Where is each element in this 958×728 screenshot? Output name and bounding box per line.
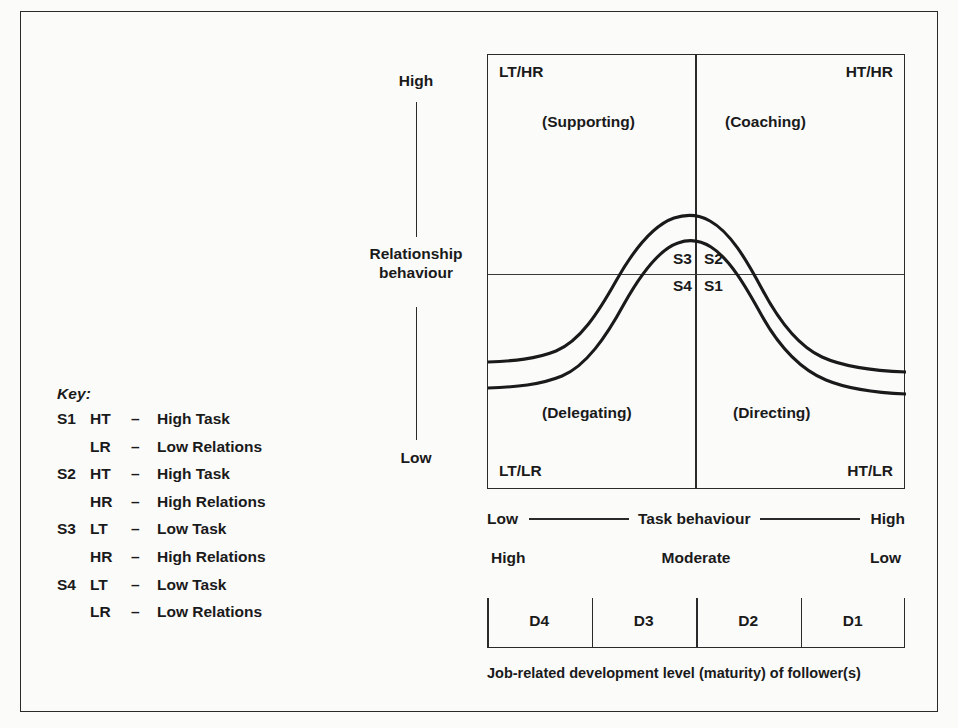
y-axis-title-line1: Relationship xyxy=(369,245,462,262)
development-level-cell: D1 xyxy=(801,598,906,647)
style-marker-s4: S4 xyxy=(673,277,692,295)
key-description: High Relations xyxy=(157,493,357,511)
quadrant-tag-top-right: HT/HR xyxy=(846,63,893,81)
y-axis-line-lower xyxy=(416,307,417,440)
key-row: S3 LT – Low Task xyxy=(57,520,357,548)
quadrant-tag-bottom-left: LT/LR xyxy=(499,462,542,480)
key-abbreviation: HT xyxy=(90,465,131,483)
key-row: HR – High Relations xyxy=(57,493,357,521)
relationship-behaviour-axis: High Relationship behaviour Low xyxy=(352,54,480,490)
y-axis-title: Relationship behaviour xyxy=(352,244,480,282)
development-level-cell: D3 xyxy=(592,598,697,647)
x-axis-rule-left xyxy=(529,518,629,519)
y-axis-line-upper xyxy=(416,102,417,237)
key-legend: Key: S1 HT – High Task LR – Low Relation… xyxy=(57,385,357,631)
development-level-scale: D4 D3 D2 D1 xyxy=(487,598,905,648)
key-abbreviation: LR xyxy=(90,603,131,621)
development-level-label: D3 xyxy=(634,612,654,633)
key-style-code: S3 xyxy=(57,520,90,538)
chart-horizontal-divider xyxy=(488,274,904,275)
maturity-header-moderate: Moderate xyxy=(487,549,905,567)
key-row: LR – Low Relations xyxy=(57,438,357,466)
key-row: S2 HT – High Task xyxy=(57,465,357,493)
key-abbreviation: HT xyxy=(90,410,131,428)
quadrant-chart: LT/HR HT/HR LT/LR HT/LR (Supporting) (Co… xyxy=(487,54,905,489)
key-dash: – xyxy=(131,603,157,621)
key-dash: – xyxy=(131,576,157,594)
development-level-label: D1 xyxy=(843,612,863,633)
key-description: Low Task xyxy=(157,520,357,538)
key-abbreviation: LT xyxy=(90,520,131,538)
x-axis-rule-right xyxy=(760,518,860,519)
key-title: Key: xyxy=(57,385,357,403)
maturity-header-low: Low xyxy=(870,549,901,567)
y-axis-high-label: High xyxy=(352,72,480,90)
chart-vertical-divider xyxy=(695,55,696,488)
quadrant-tag-bottom-right: HT/LR xyxy=(847,462,893,480)
x-axis-title: Task behaviour xyxy=(638,510,751,528)
key-description: Low Relations xyxy=(157,438,357,456)
key-dash: – xyxy=(131,548,157,566)
quadrant-label-delegating: (Delegating) xyxy=(542,404,632,422)
y-axis-title-line2: behaviour xyxy=(379,264,453,281)
key-dash: – xyxy=(131,493,157,511)
key-abbreviation: HR xyxy=(90,493,131,511)
maturity-caption: Job-related development level (maturity)… xyxy=(487,665,917,681)
key-dash: – xyxy=(131,465,157,483)
style-marker-s1: S1 xyxy=(704,277,723,295)
key-description: Low Task xyxy=(157,576,357,594)
key-style-code: S2 xyxy=(57,465,90,483)
key-abbreviation: HR xyxy=(90,548,131,566)
key-row: HR – High Relations xyxy=(57,548,357,576)
maturity-headers: High Moderate Low xyxy=(487,549,905,571)
style-marker-s3: S3 xyxy=(673,250,692,268)
development-level-cell: D4 xyxy=(487,598,592,647)
key-row: S1 HT – High Task xyxy=(57,410,357,438)
style-marker-s2: S2 xyxy=(704,250,723,268)
task-behaviour-axis: Low Task behaviour High xyxy=(487,508,905,530)
key-dash: – xyxy=(131,520,157,538)
key-dash: – xyxy=(131,438,157,456)
quadrant-label-directing: (Directing) xyxy=(733,404,811,422)
y-axis-low-label: Low xyxy=(352,449,480,467)
quadrant-label-coaching: (Coaching) xyxy=(725,113,806,131)
quadrant-label-supporting: (Supporting) xyxy=(542,113,635,131)
development-level-label: D4 xyxy=(529,612,549,633)
development-level-cell: D2 xyxy=(696,598,801,647)
key-description: High Task xyxy=(157,465,357,483)
x-axis-low-label: Low xyxy=(487,510,518,528)
key-style-code: S4 xyxy=(57,576,90,594)
x-axis-high-label: High xyxy=(871,510,905,528)
key-description: Low Relations xyxy=(157,603,357,621)
key-dash: – xyxy=(131,410,157,428)
key-style-code: S1 xyxy=(57,410,90,428)
key-row: LR – Low Relations xyxy=(57,603,357,631)
key-abbreviation: LR xyxy=(90,438,131,456)
outer-bell-curve xyxy=(488,215,906,372)
inner-bell-curve xyxy=(488,241,906,394)
quadrant-tag-top-left: LT/HR xyxy=(499,63,543,81)
development-level-label: D2 xyxy=(738,612,758,633)
key-row: S4 LT – Low Task xyxy=(57,576,357,604)
diagram-page: Key: S1 HT – High Task LR – Low Relation… xyxy=(0,0,958,728)
key-abbreviation: LT xyxy=(90,576,131,594)
key-description: High Task xyxy=(157,410,357,428)
key-description: High Relations xyxy=(157,548,357,566)
